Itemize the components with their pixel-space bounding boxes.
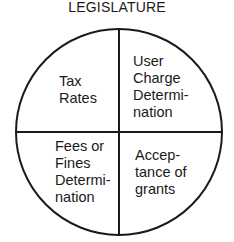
quadrant-user-charge-determination: User Charge Determi- nation <box>133 53 189 121</box>
quadrant-tax-rates: Tax Rates <box>59 73 97 107</box>
quadrant-fees-or-fines-determination: Fees or Fines Determi- nation <box>55 138 111 206</box>
quadrant-circle <box>0 0 234 242</box>
quadrant-acceptance-of-grants: Accep- tance of grants <box>135 147 187 198</box>
